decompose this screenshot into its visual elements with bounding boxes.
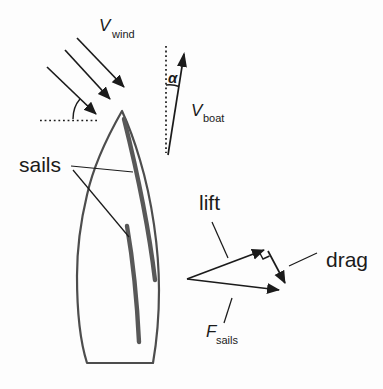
drag-label: drag <box>326 248 368 271</box>
lift-pointer-line <box>212 222 228 258</box>
wind-angle-arc <box>73 99 80 119</box>
sails-pointer-line-1 <box>71 166 133 172</box>
v-boat-label-subscript: boat <box>203 112 224 124</box>
drag-vector <box>268 251 285 283</box>
sails-label: sails <box>19 153 61 176</box>
force-group: lift drag F sails <box>187 191 368 346</box>
sailing-physics-diagram: V wind α V boat sails <box>0 0 383 389</box>
wind-group: V wind <box>40 16 135 121</box>
right-angle-marker <box>260 253 270 260</box>
boat-group: sails <box>19 111 159 363</box>
diagram-canvas: V wind α V boat sails <box>0 0 383 389</box>
lift-vector <box>187 250 264 279</box>
f-sails-pointer-line <box>224 298 232 323</box>
lift-label: lift <box>199 191 220 214</box>
v-wind-label-symbol: V <box>99 16 112 35</box>
f-sails-label-subscript: sails <box>216 334 239 346</box>
v-wind-label-subscript: wind <box>111 28 135 40</box>
alpha-label: α <box>168 69 178 86</box>
f-sails-vector <box>187 279 279 290</box>
wind-arrow-3 <box>47 67 96 114</box>
drag-pointer-line <box>289 253 317 266</box>
wind-arrow-1 <box>77 38 124 87</box>
jib-sail <box>127 226 139 342</box>
boat-velocity-group: α V boat <box>166 46 224 155</box>
